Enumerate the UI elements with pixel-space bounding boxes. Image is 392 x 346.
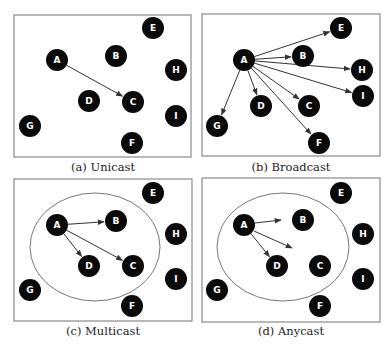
node-label: B bbox=[113, 216, 120, 226]
node-label: I bbox=[174, 274, 177, 284]
node-B: B bbox=[105, 45, 127, 67]
node-label: A bbox=[241, 220, 248, 230]
node-label: I bbox=[361, 274, 364, 284]
node-I: I bbox=[352, 268, 374, 290]
node-label: A bbox=[54, 55, 61, 65]
caption-c: (c) Multicast bbox=[8, 324, 198, 338]
node-label: I bbox=[361, 91, 364, 101]
node-label: C bbox=[130, 97, 137, 107]
node-G: G bbox=[206, 279, 228, 301]
node-I: I bbox=[352, 85, 374, 107]
node-E: E bbox=[142, 182, 164, 204]
node-G: G bbox=[206, 115, 228, 137]
node-D: D bbox=[78, 90, 100, 112]
node-label: H bbox=[172, 229, 180, 239]
panel-b: EABHIDCGF bbox=[202, 14, 380, 156]
node-label: C bbox=[130, 261, 137, 271]
node-label: H bbox=[358, 65, 366, 75]
node-E: E bbox=[330, 17, 352, 39]
panel-frame bbox=[14, 15, 191, 157]
node-label: B bbox=[113, 51, 120, 61]
node-G: G bbox=[19, 279, 41, 301]
node-label: D bbox=[85, 96, 92, 106]
node-label: A bbox=[54, 220, 61, 230]
node-label: H bbox=[172, 65, 180, 75]
node-label: F bbox=[129, 301, 135, 311]
node-label: G bbox=[213, 285, 220, 295]
node-F: F bbox=[121, 295, 143, 317]
node-D: D bbox=[266, 255, 288, 277]
node-label: A bbox=[241, 55, 248, 65]
panel-d: EABHDCIGF bbox=[202, 178, 380, 322]
caption-b: (b) Broadcast bbox=[196, 160, 386, 174]
node-label: H bbox=[359, 229, 367, 239]
caption-a: (a) Unicast bbox=[8, 160, 198, 174]
node-label: F bbox=[129, 138, 135, 148]
node-B: B bbox=[292, 209, 314, 231]
panel-frame bbox=[202, 14, 380, 156]
node-label: D bbox=[273, 261, 280, 271]
node-label: F bbox=[316, 138, 322, 148]
node-D: D bbox=[250, 95, 272, 117]
node-label: E bbox=[150, 23, 156, 33]
node-label: E bbox=[338, 23, 344, 33]
panel-c: EABHDCIGF bbox=[14, 179, 192, 321]
node-A: A bbox=[46, 49, 68, 71]
node-I: I bbox=[165, 268, 187, 290]
node-A: A bbox=[233, 49, 255, 71]
node-label: B bbox=[300, 215, 307, 225]
node-C: C bbox=[298, 95, 320, 117]
node-F: F bbox=[308, 132, 330, 154]
node-label: D bbox=[85, 261, 92, 271]
node-label: G bbox=[26, 285, 33, 295]
node-H: H bbox=[351, 59, 373, 81]
node-E: E bbox=[142, 17, 164, 39]
node-E: E bbox=[330, 182, 352, 204]
node-A: A bbox=[233, 214, 255, 236]
panel-a: EABHDCIGF bbox=[14, 15, 191, 157]
node-label: E bbox=[150, 188, 156, 198]
caption-d: (d) Anycast bbox=[196, 324, 386, 338]
node-label: F bbox=[317, 301, 323, 311]
node-I: I bbox=[165, 105, 187, 127]
node-label: D bbox=[257, 101, 264, 111]
node-C: C bbox=[309, 255, 331, 277]
node-H: H bbox=[165, 223, 187, 245]
node-D: D bbox=[78, 255, 100, 277]
node-B: B bbox=[105, 210, 127, 232]
node-H: H bbox=[165, 59, 187, 81]
node-label: E bbox=[338, 188, 344, 198]
node-F: F bbox=[309, 295, 331, 317]
node-label: G bbox=[213, 121, 220, 131]
node-label: G bbox=[26, 121, 33, 131]
node-label: B bbox=[300, 51, 307, 61]
node-C: C bbox=[122, 255, 144, 277]
node-G: G bbox=[19, 115, 41, 137]
node-F: F bbox=[121, 132, 143, 154]
node-H: H bbox=[352, 223, 374, 245]
node-B: B bbox=[292, 45, 314, 67]
node-label: I bbox=[174, 111, 177, 121]
node-C: C bbox=[122, 91, 144, 113]
node-label: C bbox=[306, 101, 313, 111]
node-A: A bbox=[46, 214, 68, 236]
node-label: C bbox=[317, 261, 324, 271]
